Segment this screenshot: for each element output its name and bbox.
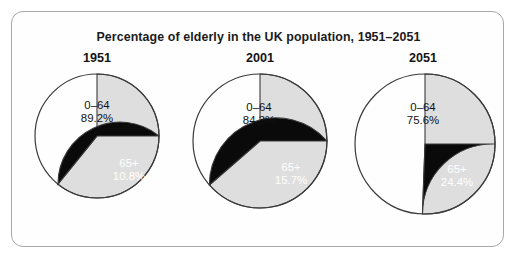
pie-label-old-value-2051: 24.4%: [426, 176, 488, 189]
pie-label-old-value-2001: 15.7%: [260, 174, 322, 187]
pie-label-young-name-2001: 0–64: [218, 101, 300, 114]
pie-chart-1951: 1951 0–64 89.2% 65+ 10.8%: [24, 51, 170, 227]
pie-label-old-name-1951: 65+: [98, 157, 160, 170]
pie-label-young-name-2051: 0–64: [382, 101, 464, 114]
pie-canvas-2001: [192, 73, 328, 209]
pie-canvas-2051: [354, 73, 496, 215]
pie-label-old-2051: 65+ 24.4%: [426, 163, 488, 189]
figure-root: Percentage of elderly in the UK populati…: [0, 0, 517, 255]
pie-charts-row: 1951 0–64 89.2% 65+ 10.8%: [12, 12, 505, 248]
pie-label-young-value-2001: 84.3%: [218, 114, 300, 127]
pie-label-old-1951: 65+ 10.8%: [98, 157, 160, 183]
pie-label-young-1951: 0–64 89.2%: [56, 99, 138, 125]
pie-year-label-2051: 2051: [342, 51, 504, 65]
pie-chart-2051: 2051 0–64 75.6% 65+ 24.4%: [342, 51, 504, 243]
pie-year-label-1951: 1951: [24, 51, 170, 65]
pie-label-young-2051: 0–64 75.6%: [382, 101, 464, 127]
pie-label-young-value-2051: 75.6%: [382, 114, 464, 127]
figure-frame: Percentage of elderly in the UK populati…: [11, 11, 504, 247]
pie-label-old-2001: 65+ 15.7%: [260, 161, 322, 187]
pie-label-young-2001: 0–64 84.3%: [218, 101, 300, 127]
pie-chart-2001: 2001 0–64 84.3% 65+ 15.7%: [182, 51, 338, 237]
pie-label-old-name-2051: 65+: [426, 163, 488, 176]
pie-label-young-value-1951: 89.2%: [56, 112, 138, 125]
pie-label-old-name-2001: 65+: [260, 161, 322, 174]
pie-svg-2051: [354, 73, 496, 215]
pie-label-young-name-1951: 0–64: [56, 99, 138, 112]
pie-label-old-value-1951: 10.8%: [98, 170, 160, 183]
pie-year-label-2001: 2001: [182, 51, 338, 65]
pie-svg-2001: [192, 73, 328, 209]
